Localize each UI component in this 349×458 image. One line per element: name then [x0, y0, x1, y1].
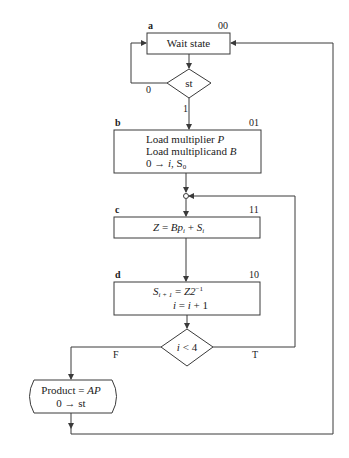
state-b-code: 01: [249, 117, 259, 128]
state-d-line2: i = i + 1: [173, 299, 208, 311]
state-b: b 01 Load multiplier P Load multiplicand…: [114, 117, 261, 173]
decision-i-lt-4-text: i < 4: [177, 341, 198, 353]
state-a-text: Wait state: [167, 37, 211, 49]
decision-false-label: F: [113, 349, 119, 360]
state-c-code: 11: [249, 204, 259, 215]
state-b-label: b: [115, 117, 121, 128]
decision-st-true-label: 1: [183, 103, 188, 114]
conditional-output: Product = AP 0 → st: [30, 380, 117, 413]
asm-chart: a 00 Wait state st 0 1 b 01 Load multipl…: [0, 0, 349, 458]
decision-st-false-label: 0: [146, 84, 151, 95]
conditional-output-line2: 0 → st: [56, 397, 85, 409]
state-d-code: 10: [249, 269, 259, 280]
state-c-text: Z = Bpi + Si: [153, 221, 204, 235]
state-a-label: a: [148, 20, 153, 31]
junction-node: [184, 194, 189, 199]
state-a-code: 00: [218, 20, 228, 31]
state-c-label: c: [115, 204, 120, 215]
state-b-line1: Load multiplier P: [146, 133, 224, 145]
decision-st-text: st: [185, 77, 192, 89]
state-d: d 10 Si + 1 = Z2−1 i = i + 1: [114, 269, 260, 315]
decision-true-label: T: [252, 349, 258, 360]
conditional-output-line1: Product = AP: [41, 384, 101, 396]
state-a: a 00 Wait state: [147, 20, 230, 54]
state-c: c 11 Z = Bpi + Si: [114, 204, 260, 238]
state-d-label: d: [115, 269, 121, 280]
state-b-line2: Load multiplicand B: [146, 145, 237, 157]
decision-st: st 0 1: [146, 69, 211, 114]
state-b-line3: 0 → i, S0: [146, 157, 187, 171]
